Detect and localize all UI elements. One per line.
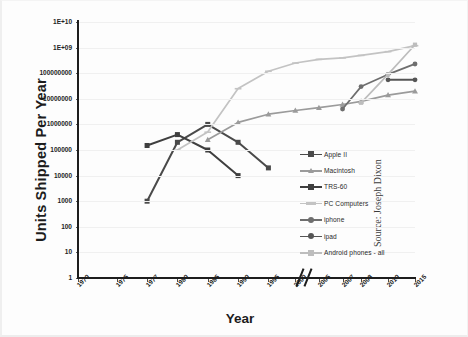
data-point-marker (385, 51, 392, 53)
gridline (78, 48, 415, 49)
data-point-marker (266, 165, 271, 170)
legend-swatch-icon (300, 166, 322, 176)
x-axis-tick-mark (177, 279, 178, 282)
series-macintosh (205, 88, 418, 142)
series-trs-60 (145, 132, 241, 178)
x-axis-tick-mark (208, 279, 209, 282)
y-axis-tick-label: 10000 (2, 173, 72, 180)
y-axis-tick-label: 100 (2, 224, 72, 231)
y-axis-tick-label: 100000000 (2, 70, 72, 77)
legend-swatch-icon (300, 231, 322, 241)
legend-item-pc-computers[interactable]: PC Computers (300, 195, 416, 211)
legend-item-apple-ii[interactable]: Apple II (300, 146, 416, 162)
data-point-marker (236, 140, 241, 145)
data-point-marker (413, 77, 418, 82)
data-point-marker (359, 101, 363, 105)
data-point-marker (292, 62, 299, 64)
gridline (78, 99, 415, 100)
legend-label: Apple II (322, 151, 347, 158)
x-axis-line (77, 277, 416, 279)
y-axis-tick-label: 1E+10 (2, 19, 72, 26)
x-axis-tick-mark (268, 279, 269, 282)
y-axis-tick-label: 1000000 (2, 121, 72, 128)
legend-swatch-icon (300, 182, 322, 192)
x-axis-tick-mark (78, 279, 79, 282)
x-axis-tick-mark (415, 279, 416, 282)
y-axis-tick-label: 100000 (2, 147, 72, 154)
x-axis-title: Year (180, 311, 300, 326)
x-axis-tick-mark (361, 279, 362, 282)
gridline (78, 73, 415, 74)
legend-item-ipad[interactable]: ipad (300, 228, 416, 244)
data-point-marker (175, 140, 180, 145)
data-point-marker (358, 55, 365, 57)
x-axis-tick-mark (388, 279, 389, 282)
legend-swatch-icon (300, 198, 322, 208)
data-point-marker (413, 43, 417, 47)
series-apple-ii (145, 122, 271, 204)
legend-label: TRS-60 (322, 183, 347, 190)
legend-item-iphone[interactable]: iphone (300, 212, 416, 228)
series-ipad (386, 77, 418, 82)
y-axis-tick-label: 1 (2, 275, 72, 282)
y-axis-tick-label: 1000 (2, 198, 72, 205)
legend-item-trs-60[interactable]: TRS-60 (300, 179, 416, 195)
x-axis-tick-mark (319, 279, 320, 282)
legend-label: ipad (322, 233, 337, 240)
legend-item-android-phones-all[interactable]: Android phones - all (300, 244, 416, 260)
legend-swatch-icon (300, 215, 322, 225)
legend-label: Android phones - all (322, 249, 385, 256)
data-point-marker (145, 143, 150, 148)
data-point-marker (316, 59, 323, 61)
data-point-marker (265, 70, 272, 72)
legend-swatch-icon (300, 149, 322, 159)
x-axis-tick-mark (147, 279, 148, 282)
series-line (147, 124, 268, 201)
data-point-marker (359, 84, 364, 89)
gridline (78, 124, 415, 125)
x-axis-tick-mark (238, 279, 239, 282)
data-point-marker (386, 77, 391, 82)
legend-label: Macintosh (322, 167, 355, 174)
series-iphone (340, 62, 417, 112)
legend: Apple IIMacintoshTRS-60PC Computersiphon… (300, 146, 416, 261)
y-axis-tick-label: 10 (2, 249, 72, 256)
data-point-marker (204, 131, 211, 133)
y-axis-tick-label: 10000000 (2, 96, 72, 103)
data-point-marker (340, 107, 345, 112)
x-axis-tick-mark (343, 279, 344, 282)
data-point-marker (175, 132, 180, 137)
y-axis-line (77, 20, 79, 279)
x-axis-break-marker (297, 268, 319, 288)
gridline (78, 22, 415, 23)
legend-swatch-icon (300, 248, 322, 258)
y-axis-title: Units Shipped Per Year (33, 55, 49, 265)
chart-figure: Units Shipped Per Year Year Source: Jose… (0, 0, 468, 337)
data-point-marker (413, 62, 418, 67)
data-point-marker (339, 57, 346, 59)
data-point-marker (235, 88, 242, 90)
x-axis-tick-mark (117, 279, 118, 282)
legend-item-macintosh[interactable]: Macintosh (300, 162, 416, 178)
y-axis-tick-label: 1E+09 (2, 45, 72, 52)
legend-label: PC Computers (322, 200, 368, 207)
legend-label: iphone (322, 216, 344, 223)
